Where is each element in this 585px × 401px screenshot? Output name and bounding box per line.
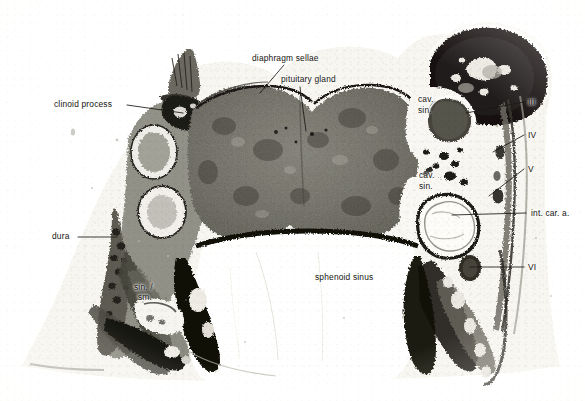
label-cav-sin-upper-line2: sin. [418, 106, 432, 116]
label-int-car-a: int. car. a. [531, 208, 569, 218]
label-clinoid-process: clinoid process [54, 99, 112, 109]
label-dura: dura [52, 231, 69, 241]
leader-clinoid-process [127, 105, 183, 113]
annotation-layer: clinoid process diaphragm sellae pituita… [0, 0, 585, 401]
label-sin-sm-line2: sm. [138, 293, 152, 303]
anatomical-figure: clinoid process diaphragm sellae pituita… [0, 0, 585, 401]
label-nerve-vi: VI [528, 262, 536, 272]
label-pituitary-gland: pituitary gland [281, 74, 336, 84]
label-diaphragm-sellae: diaphragm sellae [252, 53, 319, 63]
label-nerve-iii: III [528, 97, 536, 107]
leader-nerve-v [489, 169, 524, 196]
label-sphenoid-sinus: sphenoid sinus [315, 272, 373, 282]
leader-nerve-iii [466, 102, 524, 113]
label-cav-sin-lower-line1: cav. [419, 171, 434, 181]
label-nerve-v: V [528, 164, 534, 174]
label-nerve-iv: IV [528, 130, 536, 140]
leader-nerve-iv [493, 135, 524, 152]
leader-int-car-a [452, 213, 526, 215]
leader-pituitary-gland [300, 87, 306, 131]
label-cav-sin-lower-line2: sin. [419, 182, 433, 192]
label-cav-sin-upper-line1: cav. [418, 95, 433, 105]
